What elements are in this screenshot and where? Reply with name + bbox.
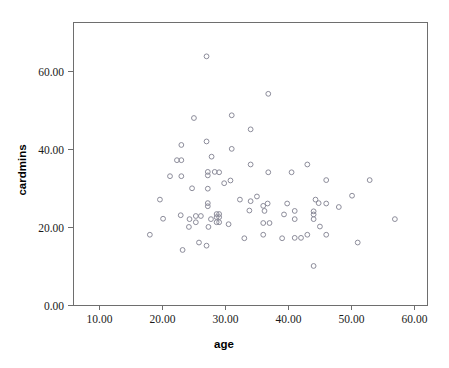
x-axis-title: age [214,338,234,350]
x-tick-label: 10.00 [87,313,113,325]
x-tick-label: 40.00 [276,313,302,325]
x-tick-label: 60.00 [402,313,428,325]
chart-canvas: 10.0020.0030.0040.0050.0060.00 0.0020.00… [0,0,449,368]
y-tick-label: 0.00 [44,300,64,312]
y-tick-label: 40.00 [38,144,64,156]
x-tick-label: 30.00 [213,313,239,325]
y-tick-label: 60.00 [38,66,64,78]
y-axis-title: cardmins [16,144,28,195]
y-tick-label: 20.00 [38,222,64,234]
scatter-plot-figure: 10.0020.0030.0040.0050.0060.00 0.0020.00… [0,0,449,368]
x-tick-label: 20.00 [150,313,176,325]
x-tick-label: 50.00 [339,313,365,325]
